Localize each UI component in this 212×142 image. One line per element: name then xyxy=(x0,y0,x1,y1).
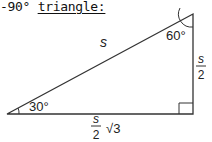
horizontal-leg-denominator: 2 xyxy=(93,128,100,142)
angle-arc-30 xyxy=(18,108,19,114)
angle-label-60: 60° xyxy=(166,28,186,43)
hypotenuse-label: s xyxy=(100,34,107,50)
angle-label-30: 30° xyxy=(29,99,49,114)
vertical-leg-denominator: 2 xyxy=(198,68,205,82)
triangle-diagram: 30° 60° s s 2 s 2 √3 xyxy=(0,0,212,142)
right-angle-marker xyxy=(179,103,193,114)
horizontal-leg-radical: √3 xyxy=(106,121,120,136)
horizontal-leg-numerator: s xyxy=(93,112,99,126)
vertical-leg-numerator: s xyxy=(198,52,204,66)
